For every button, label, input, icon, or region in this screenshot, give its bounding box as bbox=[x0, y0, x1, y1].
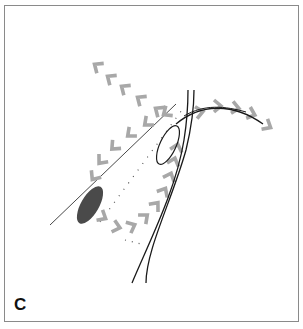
chevron-path-right bbox=[195, 100, 274, 133]
dotted-line-lower bbox=[125, 240, 145, 245]
diagram-canvas bbox=[0, 0, 303, 329]
panel-label: C bbox=[14, 296, 26, 313]
dark-oval bbox=[72, 182, 109, 227]
curved-line-right bbox=[176, 108, 263, 124]
dotted-line bbox=[100, 110, 182, 222]
chevron-path-upper-left bbox=[91, 59, 165, 117]
